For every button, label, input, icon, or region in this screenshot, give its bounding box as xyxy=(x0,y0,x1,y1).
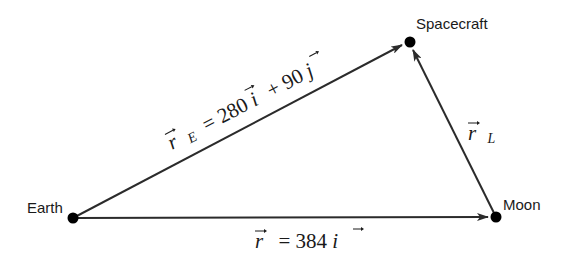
r-e-unit-i: i xyxy=(246,87,262,111)
r-l-vec: r xyxy=(468,121,477,145)
vector-diagram: Earth Moon Spacecraft r E = 280 i + 90 j xyxy=(0,0,563,274)
r-vec: r xyxy=(255,229,264,253)
r-eq: = 384 xyxy=(278,229,327,253)
r-e-vec: r xyxy=(163,129,182,154)
r-e-eq: = 280 xyxy=(198,92,252,136)
svg-text:r E = 280: r E = 280 i + 90 j xyxy=(163,58,319,157)
spacecraft-dot xyxy=(405,37,416,48)
moon-dot xyxy=(491,212,502,223)
svg-text:r L: r L xyxy=(468,121,495,146)
vector-r-e-label: r E = 280 i + 90 j xyxy=(162,50,331,157)
vector-r-arrow xyxy=(73,217,488,218)
moon-label: Moon xyxy=(503,196,541,213)
vector-r-l-label: r L xyxy=(468,121,495,146)
svg-text:r = 384 i: r = 384 i xyxy=(255,229,338,253)
r-e-sub: E xyxy=(184,129,200,147)
spacecraft-label: Spacecraft xyxy=(416,15,489,32)
vector-r-e-arrow xyxy=(73,45,402,218)
diagram-canvas: Earth Moon Spacecraft r E = 280 i + 90 j xyxy=(0,0,563,274)
r-l-sub: L xyxy=(486,131,495,146)
vector-r-label: r = 384 i xyxy=(255,227,364,253)
vector-r-l-arrow xyxy=(413,50,496,217)
earth-dot xyxy=(68,213,79,224)
r-unit-i: i xyxy=(332,229,338,253)
earth-label: Earth xyxy=(27,199,63,216)
r-e-plus: + 90 xyxy=(262,63,307,102)
